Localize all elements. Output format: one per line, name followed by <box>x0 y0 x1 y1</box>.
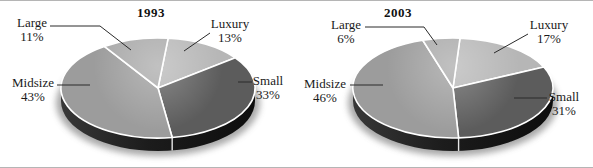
slice-value: 13% <box>218 30 242 45</box>
slice-value: 31% <box>552 103 576 118</box>
slice-value: 33% <box>256 87 280 102</box>
pie-chart-2003: Luxury17%Small31%Midsize46%Large6% <box>304 17 579 156</box>
slice-value: 46% <box>313 90 337 105</box>
pie-charts-canvas: Luxury13%Small33%Midsize43%Large11%Luxur… <box>0 0 593 168</box>
pie-highlight <box>353 38 553 138</box>
slice-value: 43% <box>21 89 45 104</box>
pie-highlight <box>61 38 255 138</box>
slice-value: 17% <box>537 31 561 46</box>
pie-chart-figure: 1993 2003 Luxury13%Small33%Midsize43%Lar… <box>0 0 593 168</box>
slice-value: 11% <box>20 29 44 44</box>
slice-value: 6% <box>337 31 355 46</box>
pie-chart-1993: Luxury13%Small33%Midsize43%Large11% <box>12 15 283 156</box>
